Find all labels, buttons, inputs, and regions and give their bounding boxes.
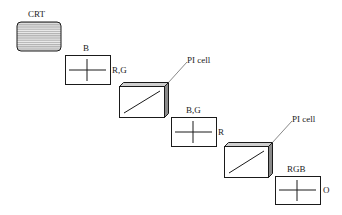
polarizer-1 [66,56,111,85]
polarizer-2-top-label: B,G [186,105,201,115]
polarizer-2-side-label: R [218,127,224,137]
polarizer-3-side-label: O [323,185,330,195]
pi-cell-2-label: PI cell [292,114,315,124]
diagram-canvas [0,0,342,215]
polarizer-1-top-label: B [83,43,89,53]
polarizer-3 [276,177,321,205]
polarizer-1-side-label: R,G [112,65,127,75]
pi-cell-1 [120,62,188,118]
crt-screen-icon [17,22,61,51]
crt-label: CRT [28,9,45,19]
polarizer-3-top-label: RGB [287,164,306,174]
polarizer-2 [172,118,217,147]
pi-cell-1-label: PI cell [187,55,210,65]
pi-cell-2 [225,121,293,178]
